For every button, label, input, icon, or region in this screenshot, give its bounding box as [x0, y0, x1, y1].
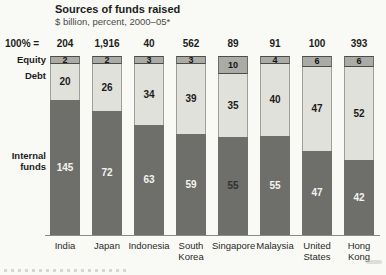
total-value: 1,916	[86, 38, 128, 49]
stacked-bar-hong-kong: 65242	[344, 56, 374, 235]
internal-segment: 47	[302, 151, 332, 235]
category-label-japan: Japan	[86, 241, 128, 262]
debt-segment: 39	[176, 64, 206, 134]
segment-value: 6	[314, 57, 319, 65]
debt-segment: 52	[344, 67, 374, 160]
category-label-indonesia: Indonesia	[128, 241, 170, 262]
stacked-bar-singapore: 103555	[218, 56, 248, 235]
legend-internal-funds-label: Internal funds	[0, 151, 46, 172]
total-value: 40	[128, 38, 170, 49]
segment-value: 42	[353, 192, 364, 203]
segment-value: 72	[101, 167, 112, 178]
equity-segment: 2	[50, 56, 80, 64]
internal-segment: 63	[134, 125, 164, 235]
stacked-bar-india: 220145	[50, 56, 80, 235]
footnote-cutoff-smudge	[4, 269, 130, 272]
debt-segment: 40	[260, 64, 290, 136]
segment-value: 52	[353, 108, 364, 119]
segment-value: 4	[272, 56, 277, 64]
debt-segment: 47	[302, 67, 332, 151]
segment-value: 34	[143, 89, 154, 100]
stacked-bars: 2201452267233463339591035554405564747652…	[50, 56, 374, 235]
legend-debt-label: Debt	[0, 71, 46, 82]
segment-value: 20	[59, 76, 70, 87]
category-label-india: India	[44, 241, 86, 262]
chart-exhibit: Sources of funds raised $ billion, perce…	[0, 0, 386, 275]
segment-value: 6	[356, 57, 361, 65]
category-label-south-korea: South Korea	[170, 241, 212, 262]
internal-segment: 145	[50, 100, 80, 235]
debt-segment: 26	[92, 64, 122, 111]
segment-value: 2	[62, 56, 67, 64]
equity-segment: 3	[176, 56, 206, 64]
debt-segment: 35	[218, 74, 248, 137]
x-axis-baseline	[45, 235, 380, 236]
segment-value: 55	[269, 180, 280, 191]
category-label-malaysia: Malaysia	[254, 241, 296, 262]
category-labels-row: IndiaJapanIndonesiaSouth KoreaSingaporeM…	[44, 241, 380, 262]
total-value: 562	[170, 38, 212, 49]
segment-value: 2	[104, 56, 109, 64]
internal-segment: 55	[260, 136, 290, 235]
equity-segment: 10	[218, 56, 248, 74]
internal-segment: 42	[344, 160, 374, 235]
legend-equity-label: Equity	[0, 55, 46, 66]
stacked-bar-japan: 22672	[92, 56, 122, 235]
total-value: 91	[254, 38, 296, 49]
internal-segment: 59	[176, 134, 206, 235]
segment-value: 26	[101, 82, 112, 93]
equity-segment: 6	[344, 56, 374, 67]
category-label-singapore: Singapore	[212, 241, 254, 262]
stacked-bar-indonesia: 33463	[134, 56, 164, 235]
totals-row-label: 100% =	[5, 38, 39, 49]
total-value: 100	[296, 38, 338, 49]
internal-segment: 55	[218, 137, 248, 235]
segment-value: 55	[227, 180, 238, 191]
total-value: 393	[338, 38, 380, 49]
totals-row: 2041,916405628991100393	[44, 38, 380, 49]
total-value: 204	[44, 38, 86, 49]
equity-segment: 4	[260, 56, 290, 64]
stacked-bar-south-korea: 33959	[176, 56, 206, 235]
segment-value: 35	[227, 100, 238, 111]
total-value: 89	[212, 38, 254, 49]
segment-value: 3	[188, 56, 193, 64]
segment-value: 63	[143, 174, 154, 185]
internal-segment: 72	[92, 111, 122, 235]
scan-artifact-smudge	[366, 260, 382, 264]
segment-value: 40	[269, 94, 280, 105]
segment-value: 59	[185, 179, 196, 190]
segment-value: 47	[311, 103, 322, 114]
segment-value: 3	[146, 56, 151, 64]
category-label-united-states: United States	[296, 241, 338, 262]
stacked-bar-united-states: 64747	[302, 56, 332, 235]
debt-segment: 20	[50, 64, 80, 100]
segment-value: 145	[57, 162, 74, 173]
equity-segment: 3	[134, 56, 164, 64]
chart-subtitle: $ billion, percent, 2000–05*	[55, 16, 170, 27]
segment-value: 47	[311, 187, 322, 198]
category-label-hong-kong: Hong Kong	[338, 241, 380, 262]
stacked-bar-malaysia: 44055	[260, 56, 290, 235]
debt-segment: 34	[134, 64, 164, 125]
equity-segment: 2	[92, 56, 122, 64]
segment-value: 39	[185, 93, 196, 104]
segment-value: 10	[228, 61, 238, 69]
chart-title: Sources of funds raised	[55, 3, 180, 15]
equity-segment: 6	[302, 56, 332, 67]
